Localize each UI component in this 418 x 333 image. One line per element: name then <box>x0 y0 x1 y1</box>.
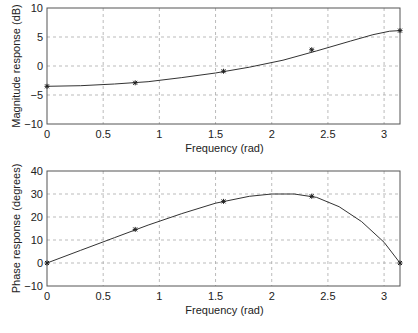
y-tick-label: 5 <box>37 31 43 43</box>
sample-marker <box>221 69 226 74</box>
sample-marker <box>309 47 314 52</box>
x-tick-label: 0 <box>44 128 50 140</box>
magnitude-plot: 00.511.522.53−10−50510Frequency (rad)Mag… <box>10 2 403 154</box>
x-tick-label: 2 <box>269 290 275 302</box>
sample-marker <box>133 227 138 232</box>
x-tick-label: 2.5 <box>320 290 335 302</box>
x-tick-label: 1 <box>156 290 162 302</box>
x-tick-label: 1.5 <box>208 128 223 140</box>
x-tick-label: 2.5 <box>320 128 335 140</box>
sample-marker <box>45 261 50 266</box>
y-tick-label: 20 <box>31 211 43 223</box>
sample-marker <box>133 80 138 85</box>
x-tick-label: 0.5 <box>96 290 111 302</box>
x-tick-label: 2 <box>269 128 275 140</box>
y-tick-label: 0 <box>37 60 43 72</box>
sample-marker <box>398 28 403 33</box>
x-tick-label: 1.5 <box>208 290 223 302</box>
x-tick-label: 3 <box>381 128 387 140</box>
response-curve <box>47 31 400 87</box>
y-tick-label: 10 <box>31 2 43 14</box>
y-tick-label: 0 <box>37 257 43 269</box>
phase-plot: 00.511.522.53−10010203040Frequency (rad)… <box>10 164 403 316</box>
sample-marker <box>309 194 314 199</box>
response-curve <box>47 194 400 263</box>
x-tick-label: 0 <box>44 290 50 302</box>
sample-marker <box>221 199 226 204</box>
sample-marker <box>45 84 50 89</box>
x-axis-label: Frequency (rad) <box>185 304 263 316</box>
y-tick-label: 30 <box>31 188 43 200</box>
y-tick-label: 40 <box>31 165 43 177</box>
figure: 00.511.522.53−10−50510Frequency (rad)Mag… <box>0 0 418 333</box>
y-axis-label: Magnitude response (dB) <box>10 4 22 128</box>
x-tick-label: 3 <box>381 290 387 302</box>
y-tick-label: −10 <box>24 280 43 292</box>
axes-frame <box>47 171 400 286</box>
y-tick-label: −5 <box>30 89 43 101</box>
sample-marker <box>398 261 403 266</box>
x-axis-label: Frequency (rad) <box>185 142 263 154</box>
y-axis-label: Phase response (degrees) <box>10 164 22 294</box>
y-tick-label: −10 <box>24 118 43 130</box>
y-tick-label: 10 <box>31 234 43 246</box>
x-tick-label: 1 <box>156 128 162 140</box>
x-tick-label: 0.5 <box>96 128 111 140</box>
